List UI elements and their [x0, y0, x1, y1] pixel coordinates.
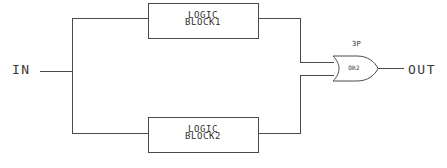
block2-output-wire: [258, 75, 334, 133]
logic-block-2-label: LOGIC BLOCK2: [148, 126, 258, 140]
input-port-label: IN: [12, 62, 31, 77]
block1-output-wire: [258, 18, 334, 62]
logic-schematic-canvas: IN OUT LOGIC BLOCK1 LOGIC BLOCK2 3P OR2: [0, 0, 447, 168]
output-port-label: OUT: [408, 62, 436, 77]
logic-block-2-line2: BLOCK2: [148, 133, 258, 140]
logic-block-1-label: LOGIC BLOCK1: [148, 12, 258, 26]
or-gate-inner-label: OR2: [340, 64, 368, 71]
or-gate-top-label: 3P: [352, 40, 361, 48]
logic-block-1-line2: BLOCK1: [148, 19, 258, 26]
